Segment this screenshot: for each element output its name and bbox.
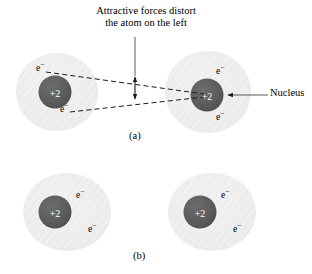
- atom-b-right: [168, 173, 256, 251]
- nucleus-charge-a-right: +2: [202, 91, 213, 102]
- atom-b-left: [23, 173, 111, 251]
- nucleus-charge-a-left: +2: [50, 88, 61, 99]
- diagram-canvas: [0, 0, 312, 274]
- electron-label-b-right-upper: e−: [221, 190, 229, 201]
- electron-label-a-left-lower: e−: [60, 104, 68, 115]
- electron-superscript: −: [220, 63, 224, 72]
- electron-superscript: −: [64, 101, 68, 110]
- electron-superscript: −: [40, 60, 44, 69]
- electron-label-b-left-lower: e−: [88, 224, 96, 235]
- nucleus-callout-label: Nucleus: [270, 87, 304, 99]
- nucleus-charge-b-left: +2: [50, 208, 61, 219]
- electron-label-b-left-upper: e−: [76, 190, 84, 201]
- electron-label-a-right-upper: e−: [216, 66, 224, 77]
- panel-a-label: (a): [129, 130, 141, 142]
- atom-polarization-diagram: Attractive forces distort the atom on th…: [0, 0, 312, 274]
- electron-superscript: −: [225, 187, 229, 196]
- electron-superscript: −: [220, 109, 224, 118]
- electron-superscript: −: [80, 187, 84, 196]
- annotation-caption-line1: Attractive forces distort: [86, 5, 206, 17]
- electron-label-a-right-lower: e−: [216, 112, 224, 123]
- panel-b-label: (b): [133, 250, 145, 262]
- annotation-caption: Attractive forces distort the atom on th…: [86, 5, 206, 30]
- electron-label-a-left-upper: e−: [36, 63, 44, 74]
- electron-superscript: −: [237, 221, 241, 230]
- annotation-caption-line2: the atom on the left: [86, 17, 206, 29]
- nucleus-charge-b-right: +2: [195, 208, 206, 219]
- electron-label-b-right-lower: e−: [233, 224, 241, 235]
- electron-superscript: −: [92, 221, 96, 230]
